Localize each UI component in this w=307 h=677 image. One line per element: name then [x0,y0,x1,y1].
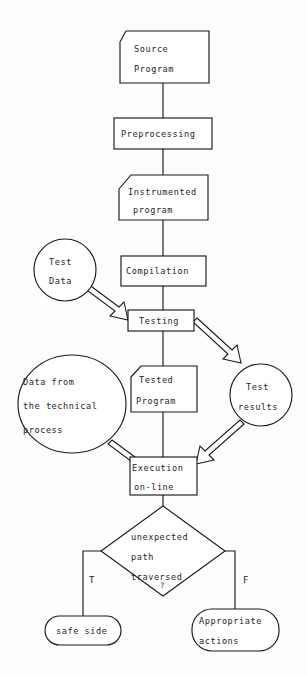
node-test-results-line1: Test [246,382,269,392]
node-tested-program-line1: Tested [139,375,173,385]
node-decision-question-mark: ? [160,581,165,590]
branch-label-false: F [243,575,248,585]
node-test-results-line2: results [238,402,278,412]
node-tested-program-line2: Program [136,396,176,406]
node-appropriate-actions-line2: actions [199,636,239,646]
node-instrumented-program-line2: program [133,205,173,215]
branch-label-true: T [89,575,95,585]
node-source-program[interactable] [120,31,209,83]
node-decision-line1: unexpected [131,532,188,542]
node-testing-line1: Testing [139,316,179,326]
node-data-from-technical-process-line1: Data from [23,377,75,387]
node-execution-online-line2: on-line [134,482,174,492]
node-test-results[interactable] [230,364,292,426]
node-source-program-line2: Program [134,64,174,74]
node-execution-online-line1: Execution [132,463,184,473]
node-test-data-line1: Test [49,257,72,267]
node-appropriate-actions-line1: Appropriate [199,616,262,626]
connector-decision-false-to-appropriate-actions [225,551,235,609]
node-preprocessing-line1: Preprocessing [121,129,195,139]
node-source-program-line1: Source [134,44,168,54]
node-data-from-technical-process-line3: process [23,425,63,435]
hollow-arrow-test-results-to-execution [196,420,244,464]
node-decision-line3: traversed [131,572,183,582]
node-test-data[interactable] [34,239,96,301]
flowchart-canvas: Source Program Preprocessing Instrumente… [0,0,307,677]
node-test-data-line2: Data [49,276,72,286]
node-data-from-technical-process-line2: the technical [23,401,97,411]
node-instrumented-program-line1: Instrumented [128,187,197,197]
node-compilation-line1: Compilation [126,266,189,276]
node-safe-side-line1: safe side [56,626,108,636]
node-decision-line2: path [131,552,154,562]
hollow-arrow-testing-to-test-results [193,318,241,363]
flowchart-diagram: Source Program Preprocessing Instrumente… [0,0,307,677]
